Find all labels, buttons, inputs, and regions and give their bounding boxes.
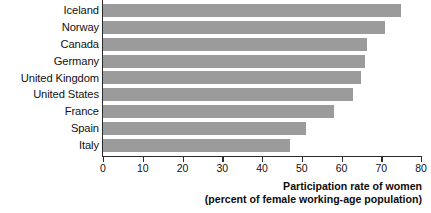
category-label: Canada — [0, 39, 99, 50]
bar-chart: IcelandNorwayCanadaGermanyUnited Kingdom… — [0, 0, 431, 213]
x-axis-caption-line2: (percent of female working-age populatio… — [92, 193, 422, 207]
bar — [103, 38, 367, 51]
x-axis-caption-line1: Participation rate of women — [92, 180, 422, 194]
bar — [103, 4, 401, 17]
category-label: Italy — [0, 140, 99, 151]
bar — [103, 21, 385, 34]
x-axis-tick-label: 40 — [256, 163, 268, 174]
category-label: United Kingdom — [0, 73, 99, 84]
category-axis: IcelandNorwayCanadaGermanyUnited Kingdom… — [0, 0, 99, 155]
y-axis-line — [102, 0, 103, 157]
x-axis-tick-label: 50 — [296, 163, 308, 174]
x-axis-tick-label: 20 — [177, 163, 189, 174]
x-axis-tick-label: 60 — [336, 163, 348, 174]
category-label: United States — [0, 89, 99, 100]
category-label: Iceland — [0, 5, 99, 16]
x-axis-tick-label: 80 — [415, 163, 427, 174]
category-label: Spain — [0, 123, 99, 134]
bar — [103, 88, 353, 101]
category-label: Norway — [0, 22, 99, 33]
plot-area — [103, 0, 421, 155]
x-axis-tick-label: 30 — [216, 163, 228, 174]
x-axis-tick-label: 0 — [100, 163, 106, 174]
x-axis-tick-label: 70 — [375, 163, 387, 174]
bar — [103, 105, 334, 118]
bar — [103, 55, 365, 68]
bar — [103, 139, 290, 152]
bar — [103, 71, 361, 84]
x-axis-tick-label: 10 — [137, 163, 149, 174]
bar — [103, 122, 306, 135]
category-label: France — [0, 106, 99, 117]
category-label: Germany — [0, 56, 99, 67]
